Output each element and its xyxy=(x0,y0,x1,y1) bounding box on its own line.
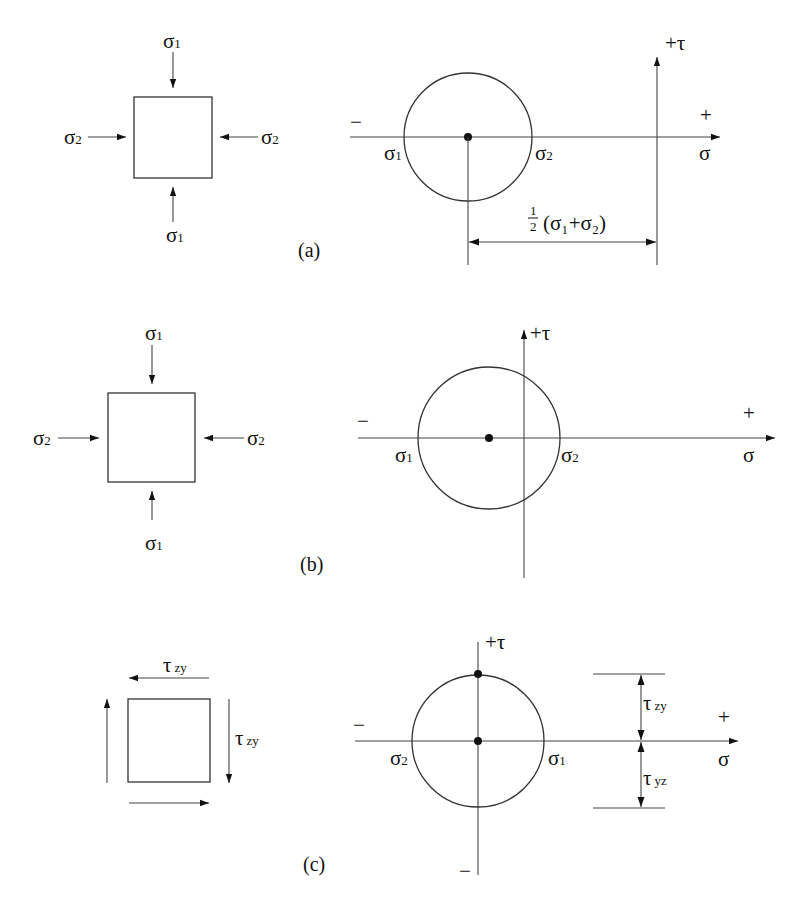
right-sigma-label: σ2 xyxy=(261,125,279,149)
sigma-axis-label: σ xyxy=(699,141,710,165)
dimension-label: 1 2 (σ₁+σ₂) xyxy=(528,203,606,235)
plus-label: + xyxy=(743,401,755,425)
top-sigma-label: σ1 xyxy=(145,321,163,345)
right-intercept-label: σ1 xyxy=(548,746,566,770)
left-sigma-label: σ2 xyxy=(33,426,51,450)
panel-caption-c: (c) xyxy=(303,853,325,876)
circle-top-dot xyxy=(474,670,482,678)
minus-label: − xyxy=(353,713,365,737)
minus-label: − xyxy=(357,409,369,433)
tau-axis-label: +τ xyxy=(485,630,505,654)
left-intercept-label: σ1 xyxy=(384,141,402,165)
panel-a: σ1 σ1 σ2 σ2 (a) +τ + − σ σ1 σ2 1 xyxy=(64,29,720,265)
mohr-circle-figure: σ1 σ1 σ2 σ2 (a) +τ + − σ σ1 σ2 1 xyxy=(0,0,794,904)
bottom-sigma-label: σ1 xyxy=(145,531,163,555)
minus-label: − xyxy=(350,110,362,134)
circle-center-dot xyxy=(474,737,482,745)
element-square xyxy=(128,699,210,782)
tau-axis-label: +τ xyxy=(665,31,685,55)
top-tau-label: τzy xyxy=(163,653,187,677)
svg-text:2: 2 xyxy=(530,219,537,234)
left-sigma-label: σ2 xyxy=(64,125,82,149)
mohr-circle-c: +τ − + − σ σ2 σ1 τzy τyz xyxy=(353,630,738,883)
right-intercept-label: σ2 xyxy=(561,443,579,467)
svg-text:(σ₁+σ₂): (σ₁+σ₂) xyxy=(543,211,606,235)
lower-dim-label: τyz xyxy=(643,766,667,790)
circle-center-dot xyxy=(485,434,493,442)
upper-dim-label: τzy xyxy=(643,691,667,715)
plus-label: + xyxy=(718,705,730,729)
bottom-sigma-label: σ1 xyxy=(166,223,184,247)
panel-caption-b: (b) xyxy=(300,553,323,576)
stress-element-c: τzy τzy xyxy=(107,653,259,803)
right-tau-label: τzy xyxy=(235,726,259,750)
mohr-circle-b: +τ + − σ σ1 σ2 xyxy=(357,321,775,578)
tau-axis-label: +τ xyxy=(530,321,550,345)
tau-minus-label: − xyxy=(459,859,471,883)
stress-element-b: σ1 σ1 σ2 σ2 xyxy=(33,321,265,555)
element-square xyxy=(108,393,195,482)
sigma-axis-label: σ xyxy=(743,443,754,467)
left-intercept-label: σ2 xyxy=(390,746,408,770)
panel-c: τzy τzy (c) +τ − + − σ σ2 σ1 τzy xyxy=(107,630,738,883)
left-intercept-label: σ1 xyxy=(395,443,413,467)
panel-b: σ1 σ1 σ2 σ2 (b) +τ + − σ σ1 σ2 xyxy=(33,321,775,578)
top-sigma-label: σ1 xyxy=(163,29,181,53)
right-sigma-label: σ2 xyxy=(247,426,265,450)
plus-label: + xyxy=(700,103,712,127)
element-square xyxy=(134,97,212,178)
right-intercept-label: σ2 xyxy=(535,141,553,165)
panel-caption-a: (a) xyxy=(298,239,320,262)
mohr-circle-a: +τ + − σ σ1 σ2 1 2 (σ₁+σ₂) xyxy=(350,31,720,265)
sigma-axis-label: σ xyxy=(718,747,729,771)
svg-text:1: 1 xyxy=(530,203,537,218)
stress-element-a: σ1 σ1 σ2 σ2 xyxy=(64,29,279,247)
